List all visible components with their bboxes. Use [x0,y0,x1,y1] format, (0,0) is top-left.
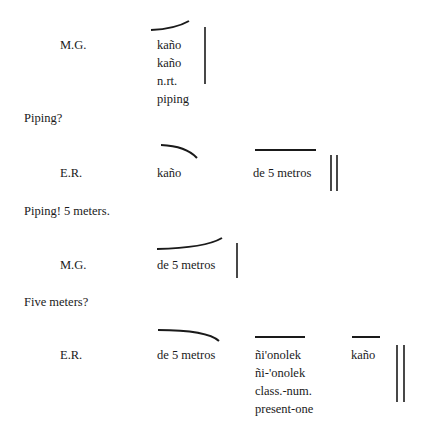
rising-contour-icon [151,21,189,30]
word: kaño [157,164,181,182]
gloss-line: ñi'onolek [255,346,313,364]
gloss-line: present-one [255,400,313,418]
word: de 5 metros [157,256,215,274]
speaker-label: M.G. [60,256,86,274]
translation: Piping? [24,109,62,127]
gloss-line: class.-num. [255,382,313,400]
gloss-stack: ñi'onolek ñi-'onolek class.-num. present… [255,346,313,418]
translation: Five meters? [24,293,88,311]
gloss-line: kaño [157,54,189,72]
gloss-line: ñi-'onolek [255,364,313,382]
gloss-stack: kaño kaño n.rt. piping [157,36,189,108]
gloss-line: piping [157,90,189,108]
word: de 5 metros [157,346,215,364]
word: kaño [351,346,375,364]
speaker-label: M.G. [60,36,86,54]
translation: Piping! 5 meters. [24,202,110,220]
word: de 5 metros [253,164,311,182]
gloss-line: kaño [157,36,189,54]
rising-contour-icon [157,238,222,249]
falling-contour-icon [158,330,219,341]
speaker-label: E.R. [60,346,82,364]
falling-contour-icon [161,145,197,158]
gloss-line: n.rt. [157,72,189,90]
speaker-label: E.R. [60,164,82,182]
